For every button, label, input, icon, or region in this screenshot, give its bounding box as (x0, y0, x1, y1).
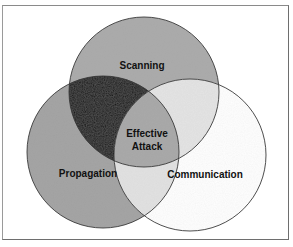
effective-label: Effective (126, 128, 168, 139)
communication-label: Communication (167, 169, 243, 180)
venn-diagram: Scanning Effective Attack Propagation Co… (0, 0, 293, 247)
propagation-label: Propagation (59, 168, 117, 179)
scanning-label: Scanning (119, 60, 164, 71)
attack-label: Attack (132, 141, 163, 152)
